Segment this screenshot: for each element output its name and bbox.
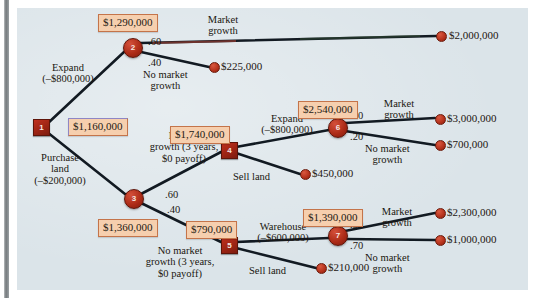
emv-box-node-2: $1,290,000 — [98, 14, 158, 32]
decision-node-1[interactable]: 1 — [33, 119, 50, 136]
event-label-n2-up-line1: Market — [191, 14, 255, 25]
event-label-n3-down-line1: No market — [128, 245, 232, 256]
branch-tint-green — [300, 36, 420, 39]
decision-node-4[interactable]: 4 — [221, 142, 238, 159]
event-label-n2-up-line2: growth — [191, 25, 255, 36]
terminal-dot-225000 — [209, 62, 220, 73]
chance-node-6[interactable]: 6 — [328, 118, 348, 138]
chance-node-2[interactable]: 2 — [123, 38, 143, 58]
event-label-n3-down: No market growth (3 years, $0 payoff) — [128, 245, 232, 279]
event-label-n2-down: No market growth — [143, 69, 188, 92]
chance-node-7[interactable]: 7 — [328, 226, 348, 246]
payoff-label-700000: $700,000 — [447, 138, 488, 150]
event-label-n6-down-line2: growth — [365, 154, 410, 165]
event-label-n7-up-line2: growth — [368, 217, 426, 228]
terminal-dot-450000 — [300, 169, 311, 180]
decision-label-purchase-line2: land — [21, 163, 99, 174]
event-label-n3-down-line2: growth (3 years, — [128, 256, 232, 267]
event-label-n6-up-line1: Market — [370, 98, 428, 109]
decision-label-expand-line2: (–$800,000) — [32, 73, 104, 84]
probability-label-n2-down: .40 — [148, 57, 161, 68]
event-label-n7-down-line2: growth — [365, 263, 410, 274]
payoff-label-450000: $450,000 — [312, 167, 353, 179]
decision-label-sell-land-5: Sell land — [249, 265, 286, 276]
terminal-dot-700000 — [435, 140, 446, 151]
event-label-n3-down-line3: $0 payoff) — [128, 268, 232, 279]
probability-label-n3-up: .60 — [165, 189, 178, 200]
emv-box-node-6: $2,540,000 — [298, 101, 358, 119]
terminal-dot-2000000 — [436, 31, 447, 42]
payoff-label-225000: $225,000 — [221, 60, 262, 72]
event-label-n2-up: Market growth — [191, 14, 255, 37]
terminal-dot-210000 — [316, 263, 327, 274]
emv-box-node-1: $1,160,000 — [68, 118, 128, 136]
payoff-label-1000000: $1,000,000 — [447, 233, 497, 245]
event-label-n7-up: Market growth — [368, 206, 426, 229]
terminal-dot-1000000 — [435, 235, 446, 246]
decision-label-expand-line1: Expand — [32, 62, 104, 73]
decision-label-expand4-line2: (–$800,000) — [256, 124, 318, 135]
payoff-label-210000: $210,000 — [328, 261, 369, 273]
payoff-label-2000000: $2,000,000 — [449, 29, 499, 41]
terminal-dot-3000000 — [435, 114, 446, 125]
decision-label-purchase-line1: Purchase — [21, 152, 99, 163]
emv-box-node-5: $790,000 — [186, 221, 237, 239]
event-label-n6-down: No market growth — [365, 143, 410, 166]
emv-box-node-3: $1,360,000 — [98, 219, 158, 237]
event-label-n7-up-line1: Market — [368, 206, 426, 217]
emv-box-node-4: $1,740,000 — [170, 126, 230, 144]
probability-label-n6-down: .20 — [350, 131, 363, 142]
decision-label-expand-from-1: Expand (–$800,000) — [32, 62, 104, 85]
probability-label-n7-down: .70 — [350, 240, 363, 251]
event-label-n7-down: No market growth — [365, 252, 410, 275]
decision-tree-figure: 1 2 3 4 5 6 7 $2,000,000 $225,000 $3,000… — [0, 0, 534, 298]
decision-label-sell-land-4: Sell land — [233, 171, 270, 182]
event-label-n7-down-line1: No market — [365, 252, 410, 263]
emv-box-node-7: $1,390,000 — [303, 209, 363, 227]
decision-label-purchase-line3: (–$200,000) — [21, 175, 99, 186]
decision-label-purchase-land: Purchase land (–$200,000) — [21, 152, 99, 186]
decision-node-5[interactable]: 5 — [221, 237, 238, 254]
payoff-label-3000000: $3,000,000 — [447, 112, 497, 124]
event-label-n6-up-line2: growth — [370, 109, 428, 120]
payoff-label-2300000: $2,300,000 — [447, 206, 497, 218]
event-label-n2-down-line1: No market — [143, 69, 188, 80]
probability-label-n2-up: .60 — [148, 36, 161, 47]
event-label-n6-up: Market growth — [370, 98, 428, 121]
event-label-n2-down-line2: growth — [143, 80, 188, 91]
probability-label-n3-down: .40 — [167, 204, 180, 215]
chance-node-3[interactable]: 3 — [124, 189, 144, 209]
event-label-n6-down-line1: No market — [365, 143, 410, 154]
terminal-dot-2300000 — [435, 208, 446, 219]
decision-label-warehouse-line2: (–$600,000) — [248, 232, 318, 243]
